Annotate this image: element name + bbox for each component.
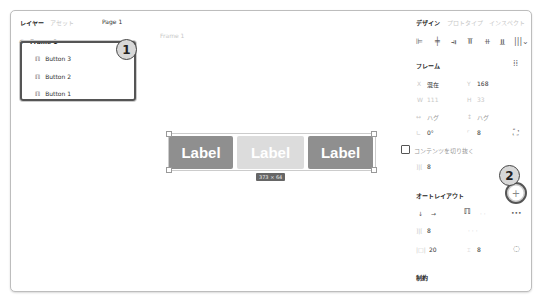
frame-grid-icon[interactable]: ⁞⁞	[513, 59, 518, 68]
constraints-title: 制約	[416, 273, 428, 282]
clip-content-checkbox[interactable]	[401, 145, 410, 154]
callout-1: 1	[116, 39, 137, 60]
y-input[interactable]: 168	[477, 80, 488, 87]
y-label: Y	[467, 80, 471, 87]
align-center-v-icon[interactable]: ⧺	[484, 37, 491, 46]
individual-padding-icon[interactable]: ◌	[513, 244, 520, 253]
align-bottom-icon[interactable]: ⫫	[500, 37, 505, 47]
hug-height-icon: ↕	[467, 113, 472, 120]
vertical-padding-input[interactable]: 8	[477, 246, 481, 253]
align-center-h-icon[interactable]: ╪	[435, 37, 440, 46]
alignment-dots[interactable]: · ·	[480, 210, 486, 217]
height-resize-select[interactable]: ハグ	[477, 113, 489, 122]
canvas-button-2[interactable]: Label	[237, 136, 304, 169]
canvas-button-3[interactable]: Label	[308, 136, 373, 169]
w-input[interactable]: 111	[427, 96, 438, 103]
resize-handle-tl[interactable]	[166, 131, 172, 137]
rotation-icon: ∟	[416, 129, 421, 136]
x-label: X	[417, 80, 421, 87]
width-resize-select[interactable]: ハグ	[427, 113, 439, 122]
more-options-button[interactable]: •••	[511, 209, 522, 216]
x-input[interactable]: 混在	[427, 80, 439, 89]
tab-layers[interactable]: レイヤー	[20, 18, 44, 27]
vertical-padding-icon: ⌶	[467, 246, 471, 254]
resize-handle-br[interactable]	[371, 167, 377, 173]
gap-input[interactable]: 8	[427, 227, 431, 234]
alignment-grid-icon[interactable]: ℿ	[464, 207, 471, 216]
corner-radius-icon: ⌜	[467, 129, 470, 136]
w-label: W	[417, 96, 423, 103]
tab-prototype[interactable]: プロトタイプ	[447, 18, 483, 27]
size-badge: 373 × 64	[256, 173, 285, 181]
resize-handle-tr[interactable]	[371, 131, 377, 137]
distribute-icon[interactable]: |||⌄	[514, 37, 529, 46]
h-label: H	[467, 96, 472, 103]
h-input[interactable]: 33	[477, 96, 485, 103]
direction-horizontal-button[interactable]: →	[431, 210, 436, 217]
resize-handle-bl[interactable]	[166, 167, 172, 173]
layer-item-button-2[interactable]: ℿ Button 2	[35, 71, 71, 81]
tab-assets[interactable]: アセット	[50, 18, 74, 27]
align-right-icon[interactable]: ⫣	[451, 37, 456, 47]
spacing-icon: ]|[	[416, 163, 423, 170]
page-selector[interactable]: Page 1	[102, 18, 122, 25]
auto-layout-icon: ℿ	[35, 73, 39, 80]
align-top-icon[interactable]: ⫪	[468, 37, 473, 47]
frame-section-title: フレーム	[416, 61, 440, 70]
canvas-frame-label[interactable]: Frame 1	[160, 32, 184, 39]
tab-inspect[interactable]: インスペクト	[489, 18, 525, 27]
layer-item-button-3[interactable]: ℿ Button 3	[35, 53, 71, 63]
direction-vertical-button[interactable]: ↓	[418, 210, 423, 217]
auto-layout-icon: ℿ	[35, 90, 39, 97]
horizontal-padding-input[interactable]: 20	[429, 246, 437, 253]
canvas-button-1[interactable]: Label	[169, 136, 233, 169]
auto-layout-title: オートレイアウト	[416, 191, 464, 200]
spacing-input[interactable]: 8	[427, 163, 431, 170]
independent-corners-icon[interactable]: ⛶	[513, 128, 519, 138]
clip-content-label: コンテンツを切り抜く	[414, 146, 474, 155]
tab-design[interactable]: デザイン	[416, 18, 440, 27]
rotation-input[interactable]: 0°	[427, 129, 434, 136]
gap-icon: ]|[	[416, 227, 423, 234]
corner-radius-input[interactable]: 8	[477, 129, 481, 136]
alignment-dots-2: · · ·	[468, 227, 478, 234]
auto-layout-icon: ℿ	[35, 55, 39, 62]
align-left-icon[interactable]: ⊫	[416, 37, 423, 46]
hug-width-icon: ↔	[416, 113, 421, 120]
callout-2: 2	[499, 165, 520, 186]
layer-item-button-1[interactable]: ℿ Button 1	[35, 88, 71, 98]
horizontal-padding-icon: |□|	[416, 246, 426, 253]
